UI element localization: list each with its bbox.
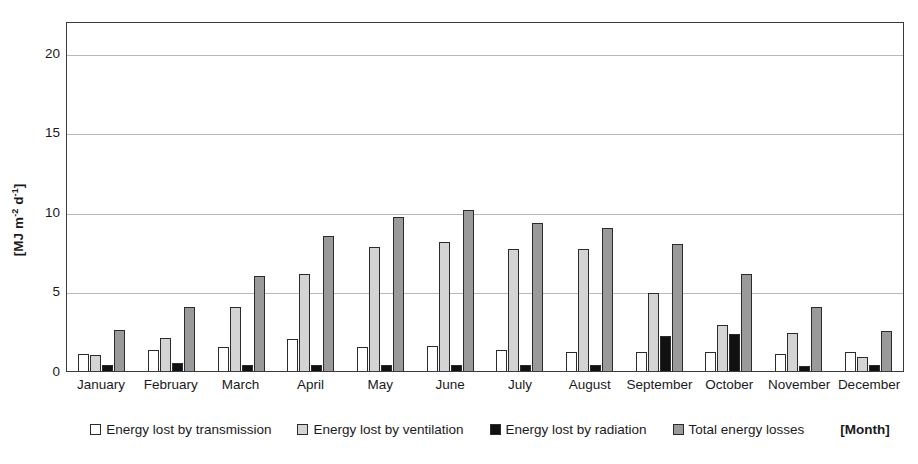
y-axis-tick-label: 0: [30, 365, 60, 379]
legend-item[interactable]: Energy lost by transmission: [90, 422, 271, 437]
y-axis-tick-label: 10: [30, 206, 60, 220]
bar: [717, 325, 728, 371]
chart-figure: [MJ m-2 d-1] 05101520 JanuaryFebruaryMar…: [0, 0, 918, 464]
bar: [578, 249, 589, 372]
y-axis-tick-label: 15: [30, 127, 60, 141]
x-axis-title: [Month]: [840, 422, 889, 437]
y-axis-title-sup-1: -2: [10, 209, 20, 217]
y-axis-title-mid: d: [11, 196, 26, 208]
bar: [369, 247, 380, 371]
bar: [148, 350, 159, 371]
y-axis-tick-label: 5: [30, 286, 60, 300]
legend-swatch-icon: [490, 424, 501, 435]
y-axis-tick-label: 20: [30, 47, 60, 61]
y-axis-tick-labels: 05101520: [28, 0, 60, 464]
legend-label: Energy lost by ventilation: [313, 422, 463, 437]
legend-swatch-icon: [90, 424, 101, 435]
bar: [254, 276, 265, 371]
bar-group: [206, 23, 276, 371]
bar: [532, 223, 543, 371]
legend-swatch-icon: [297, 424, 308, 435]
bar: [230, 307, 241, 371]
bar: [218, 347, 229, 371]
x-axis-tick-label: February: [136, 376, 206, 400]
bar: [729, 334, 740, 371]
legend-label: Total energy losses: [689, 422, 805, 437]
bar: [787, 333, 798, 371]
bar: [102, 365, 113, 371]
x-axis-tick-label: March: [206, 376, 276, 400]
bar-group: [137, 23, 207, 371]
bar: [857, 357, 868, 371]
y-axis-title-sup-2: -1: [10, 188, 20, 196]
bar: [90, 355, 101, 371]
bar: [705, 352, 716, 371]
bar: [508, 249, 519, 372]
bar: [881, 331, 892, 371]
bar: [602, 228, 613, 371]
bar: [393, 217, 404, 371]
bar: [78, 354, 89, 372]
y-axis-title-prefix: [MJ m: [11, 217, 26, 257]
bar: [590, 365, 601, 371]
bar: [672, 244, 683, 371]
x-axis-tick-label: November: [764, 376, 834, 400]
x-axis-tick-label: April: [275, 376, 345, 400]
bar-group: [346, 23, 416, 371]
bar: [869, 365, 880, 371]
legend-label: Energy lost by radiation: [506, 422, 647, 437]
bar: [496, 350, 507, 371]
x-axis-tick-label: May: [345, 376, 415, 400]
bar: [799, 366, 810, 371]
bar: [323, 236, 334, 371]
plot-area: [66, 22, 904, 372]
bar-group: [694, 23, 764, 371]
legend-swatch-icon: [673, 424, 684, 435]
bar: [439, 242, 450, 371]
bar-group: [833, 23, 903, 371]
x-axis-tick-label: December: [834, 376, 904, 400]
bar: [381, 365, 392, 371]
bar: [299, 274, 310, 371]
x-axis-tick-label: January: [66, 376, 136, 400]
bar: [520, 365, 531, 371]
bar: [172, 363, 183, 371]
legend-item[interactable]: Energy lost by radiation: [490, 422, 647, 437]
bar: [160, 338, 171, 371]
bar: [451, 365, 462, 371]
bar: [845, 352, 856, 371]
bar: [811, 307, 822, 371]
bar-group: [485, 23, 555, 371]
bar-groups: [67, 23, 903, 371]
bar-group: [764, 23, 834, 371]
bar-group: [624, 23, 694, 371]
bar-group: [276, 23, 346, 371]
x-axis-tick-label: October: [694, 376, 764, 400]
y-axis-title: [MJ m-2 d-1]: [6, 160, 30, 280]
chart-legend: Energy lost by transmissionEnergy lost b…: [62, 416, 918, 442]
legend-item[interactable]: Total energy losses: [673, 422, 805, 437]
x-axis-tick-label: August: [555, 376, 625, 400]
bar: [463, 210, 474, 371]
bar: [427, 346, 438, 371]
bar: [741, 274, 752, 371]
x-axis-tick-label: July: [485, 376, 555, 400]
x-axis-tick-label: September: [625, 376, 695, 400]
bar: [775, 354, 786, 372]
bar: [648, 293, 659, 371]
bar: [184, 307, 195, 371]
bar-group: [67, 23, 137, 371]
bar: [636, 352, 647, 371]
x-axis-tick-label: June: [415, 376, 485, 400]
bar-group: [415, 23, 485, 371]
bar: [566, 352, 577, 371]
legend-item[interactable]: Energy lost by ventilation: [297, 422, 463, 437]
bar: [660, 336, 671, 371]
bar: [311, 365, 322, 371]
y-axis-title-text: [MJ m-2 d-1]: [10, 184, 27, 257]
bar: [242, 365, 253, 371]
y-axis-title-suffix: ]: [11, 184, 26, 189]
legend-items: Energy lost by transmissionEnergy lost b…: [90, 422, 804, 437]
bar-group: [555, 23, 625, 371]
bar: [357, 347, 368, 371]
